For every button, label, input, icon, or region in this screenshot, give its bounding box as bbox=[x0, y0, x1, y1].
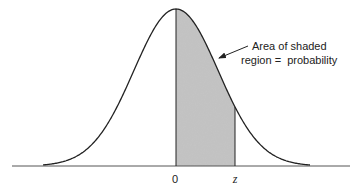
z-tick-label: z bbox=[232, 172, 238, 186]
zero-tick-label: 0 bbox=[172, 173, 178, 185]
normal-distribution-diagram: Area of shaded region = probability 0 z bbox=[0, 0, 358, 190]
annotation-line-2: region = probability bbox=[241, 54, 338, 66]
annotation-line-1: Area of shaded bbox=[252, 40, 327, 52]
